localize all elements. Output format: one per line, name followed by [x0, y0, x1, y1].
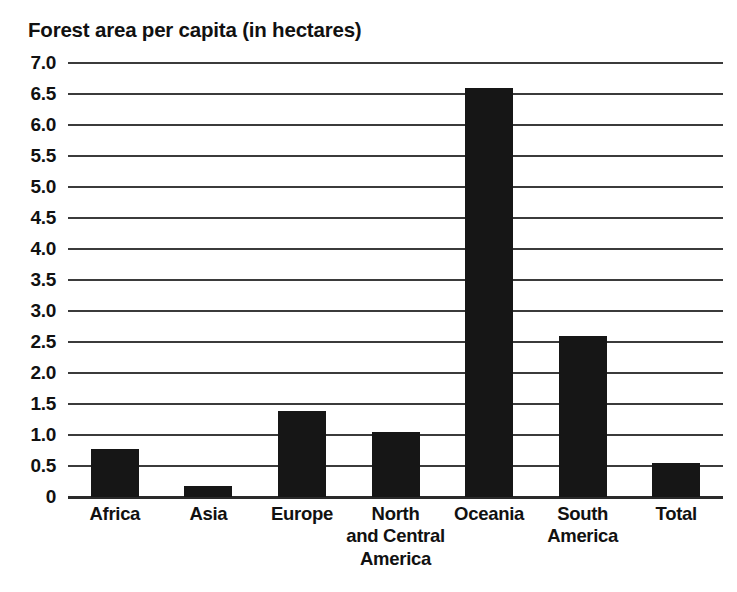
- chart-title: Forest area per capita (in hectares): [28, 18, 361, 42]
- x-axis-tick-label-line: Total: [618, 503, 734, 525]
- x-axis-tick-label-line: and Central: [337, 525, 453, 547]
- gridline: [68, 155, 723, 157]
- y-axis-tick-label: 6.0: [2, 114, 56, 136]
- gridline: [68, 186, 723, 188]
- y-axis-tick-label: 5.0: [2, 176, 56, 198]
- y-axis-tick-label: 5.5: [2, 145, 56, 167]
- bar: [278, 411, 326, 497]
- gridline: [68, 372, 723, 374]
- bar: [559, 336, 607, 497]
- gridline: [68, 248, 723, 250]
- gridline: [68, 62, 723, 64]
- plot-area: [68, 63, 723, 497]
- gridline: [68, 124, 723, 126]
- y-axis-tick-label: 4.0: [2, 238, 56, 260]
- y-axis-tick-label: 3.5: [2, 269, 56, 291]
- x-axis-tick-label-line: America: [337, 548, 453, 570]
- bar: [91, 449, 139, 497]
- x-axis-tick-label: Total: [618, 503, 734, 525]
- bar: [652, 463, 700, 497]
- x-axis: AfricaAsiaEuropeNorthand CentralAmericaO…: [68, 503, 723, 588]
- gridline: [68, 279, 723, 281]
- y-axis-tick-label: 0: [2, 486, 56, 508]
- y-axis-tick-label: 6.5: [2, 83, 56, 105]
- x-axis-tick-label-line: America: [525, 525, 641, 547]
- y-axis-tick-label: 0.5: [2, 455, 56, 477]
- chart-figure: Forest area per capita (in hectares) 7.0…: [0, 0, 737, 592]
- y-axis-tick-label: 3.0: [2, 300, 56, 322]
- bar: [465, 88, 513, 497]
- y-axis-tick-label: 1.5: [2, 393, 56, 415]
- bar: [372, 432, 420, 497]
- gridline: [68, 403, 723, 405]
- gridline: [68, 217, 723, 219]
- bar: [184, 486, 232, 497]
- y-axis-tick-label: 1.0: [2, 424, 56, 446]
- y-axis: 7.06.56.05.55.04.54.03.53.02.52.01.51.00…: [0, 63, 56, 497]
- y-axis-tick-label: 7.0: [2, 52, 56, 74]
- y-axis-tick-label: 2.0: [2, 362, 56, 384]
- y-axis-tick-label: 4.5: [2, 207, 56, 229]
- gridline: [68, 341, 723, 343]
- gridline: [68, 310, 723, 312]
- y-axis-tick-label: 2.5: [2, 331, 56, 353]
- gridline: [68, 93, 723, 95]
